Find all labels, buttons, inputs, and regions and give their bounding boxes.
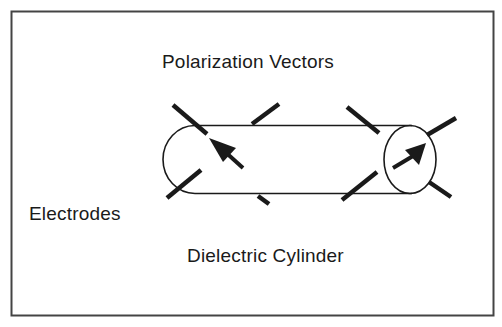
arrow-left-vector: [209, 138, 243, 168]
arrow-right-vector: [393, 143, 426, 168]
electrode-bar: [258, 196, 269, 204]
electrode-bar: [427, 118, 456, 135]
dielectric-cylinder: [163, 126, 436, 194]
electrode-bar: [429, 182, 451, 197]
polarization-arrows: [209, 138, 426, 168]
dielectric-cylinder-label: Dielectric Cylinder: [187, 245, 344, 267]
electrode-bar: [342, 172, 377, 200]
polarization-vectors-label: Polarization Vectors: [162, 51, 334, 73]
electrodes-label: Electrodes: [29, 203, 121, 225]
diagram-canvas: [0, 0, 502, 327]
electrode-bar: [347, 107, 379, 133]
electrode-bar: [252, 104, 279, 124]
